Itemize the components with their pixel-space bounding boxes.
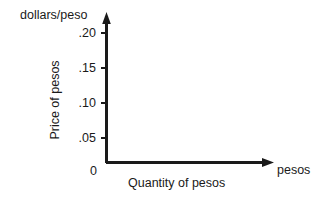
- x-axis-title: Quantity of pesos: [128, 177, 225, 190]
- y-axis-tick-label: .15: [62, 62, 96, 75]
- y-axis-tick-label: .10: [62, 97, 96, 110]
- chart-figure: dollars/peso Price of pesos .20 .15 .10 …: [0, 0, 325, 198]
- y-axis-arrowhead: [102, 12, 111, 24]
- y-axis-title: Price of pesos: [49, 60, 62, 139]
- y-axis-unit-label: dollars/peso: [20, 9, 87, 22]
- y-axis-tick-label: .20: [62, 27, 96, 40]
- x-axis-arrowhead: [262, 158, 274, 167]
- x-axis-unit-label: pesos: [277, 164, 310, 177]
- origin-label: 0: [90, 165, 97, 178]
- y-axis-tick-label: .05: [62, 132, 96, 145]
